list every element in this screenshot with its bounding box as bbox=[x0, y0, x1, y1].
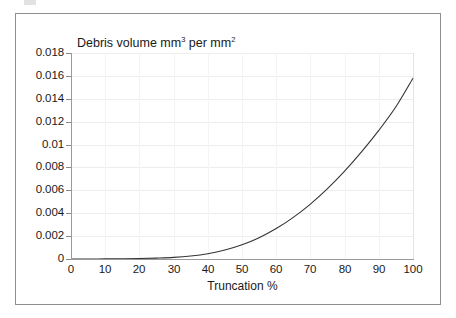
y-axis-tick-label: 0.01 bbox=[16, 139, 64, 151]
y-axis-tick-label: 0.002 bbox=[16, 230, 64, 242]
chart-title-lead: Debris volume mm bbox=[77, 36, 181, 50]
plot-right-border bbox=[413, 53, 414, 260]
y-axis-tick bbox=[66, 53, 71, 54]
plot-area bbox=[71, 53, 413, 259]
chart-title-mid: per mm bbox=[185, 36, 231, 50]
y-axis-tick bbox=[66, 122, 71, 123]
y-axis-tick bbox=[66, 167, 71, 168]
y-axis-tick bbox=[66, 259, 71, 260]
chart-title-sup-2: 2 bbox=[231, 35, 235, 44]
y-axis-tick-label: 0.016 bbox=[16, 70, 64, 82]
data-curve bbox=[71, 53, 413, 259]
y-axis-tick bbox=[66, 145, 71, 146]
y-axis-tick bbox=[66, 76, 71, 77]
y-axis-tick-label: 0.006 bbox=[16, 184, 64, 196]
y-axis-tick bbox=[66, 236, 71, 237]
x-axis-line bbox=[71, 259, 414, 260]
curve-path bbox=[71, 78, 413, 259]
y-axis-tick-label: 0.008 bbox=[16, 161, 64, 173]
figure-frame: Debris volume mm3 per mm2 00.0020.0040.0… bbox=[15, 13, 441, 305]
x-axis-tick-label: 100 bbox=[393, 264, 433, 276]
y-axis-tick bbox=[66, 190, 71, 191]
y-axis-tick-label: 0.014 bbox=[16, 93, 64, 105]
y-axis-tick-label: 0.018 bbox=[16, 47, 64, 59]
y-axis-tick bbox=[66, 213, 71, 214]
x-axis-title: Truncation % bbox=[71, 280, 414, 293]
y-axis-tick bbox=[66, 99, 71, 100]
y-axis-line bbox=[71, 53, 72, 260]
y-axis-tick-label: 0 bbox=[16, 253, 64, 265]
crop-artifact bbox=[24, 0, 36, 5]
chart-root: Debris volume mm3 per mm2 00.0020.0040.0… bbox=[16, 14, 442, 306]
x-axis-tick-label: 70 bbox=[290, 264, 330, 276]
chart-title: Debris volume mm3 per mm2 bbox=[77, 36, 235, 50]
y-axis-tick-label: 0.004 bbox=[16, 207, 64, 219]
x-axis-tick-label: 20 bbox=[119, 264, 159, 276]
y-axis-tick-labels: 00.0020.0040.0060.0080.010.0120.0140.016… bbox=[16, 14, 64, 306]
y-axis-tick-label: 0.012 bbox=[16, 116, 64, 128]
